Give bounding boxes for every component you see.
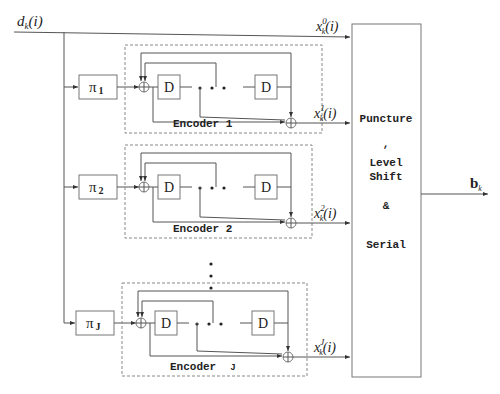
encoder-output-label: x2k(i)	[313, 203, 337, 223]
delay-label: D	[261, 80, 271, 95]
processor-line-1: Puncture	[360, 113, 413, 125]
ellipsis-dot	[219, 322, 222, 325]
encoder-1-group: π1DDx1k(i)Encoder 1	[79, 45, 350, 133]
encoder-2-group: π2DDx2k(i)Encoder 2	[79, 145, 350, 238]
delay-label: D	[161, 316, 171, 331]
delay-label: D	[261, 180, 271, 195]
encoder-title: Encoder 2	[173, 223, 232, 235]
ellipsis-dot	[222, 86, 225, 89]
ellipsis-dot	[207, 322, 210, 325]
delay-label: D	[164, 180, 174, 195]
ellipsis-dot	[209, 286, 212, 289]
encoder-output-label: x1k(i)	[313, 103, 337, 123]
processor-line-2: ,	[383, 138, 390, 150]
delay-label: D	[258, 316, 268, 331]
delay-label: D	[164, 80, 174, 95]
encoder-output-label: xJk(i)	[313, 337, 336, 357]
encoder-title: Encoder 1	[173, 118, 233, 130]
systematic-output-label: x0k(i)	[315, 16, 339, 36]
ellipsis-dot	[222, 186, 225, 189]
processor-line-5: &	[383, 200, 390, 212]
ellipsis-dot	[209, 262, 212, 265]
ellipsis-dot	[209, 274, 212, 277]
encoder-title: EncoderJ	[170, 361, 236, 373]
input-label: dk(i)	[17, 13, 43, 31]
turbo-encoder-diagram: dk(i) x0k(i) π1DDx1k(i)Encoder 1π2DDx2k(…	[0, 0, 500, 394]
ellipsis-dot	[210, 86, 213, 89]
ellipsis-dot	[210, 186, 213, 189]
processor-line-3: Level	[369, 157, 402, 169]
processor-line-6: Serial	[366, 239, 406, 251]
output-label: bk	[470, 175, 482, 193]
encoder-3-group: πJDDxJk(i)EncoderJ	[76, 283, 350, 376]
processor-line-4: Shift	[369, 171, 402, 183]
